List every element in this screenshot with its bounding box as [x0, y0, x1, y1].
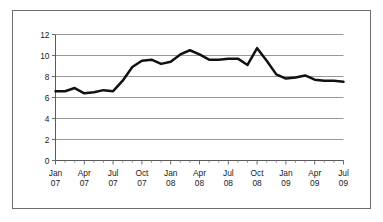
x-axis-tick-label-year: 07 [137, 178, 147, 188]
x-axis-tick-label-month: Apr [78, 168, 91, 178]
x-tick-labels-group: Jan07Apr07Jul07Oct07Jan08Apr08Jul08Oct08… [49, 168, 349, 188]
x-axis-tick-label-year: 09 [310, 178, 320, 188]
x-axis-tick-label-month: Apr [308, 168, 321, 178]
chart-figure: 024681012 Jan07Apr07Jul07Oct07Jan08Apr08… [0, 0, 383, 222]
y-axis-group [52, 35, 56, 161]
x-axis-tick-label-month: Jul [338, 168, 349, 178]
x-axis-tick-label-month: Jan [49, 168, 63, 178]
x-axis-tick-label-year: 07 [108, 178, 118, 188]
x-axis-tick-label-year: 08 [166, 178, 176, 188]
x-axis-tick-label-year: 08 [252, 178, 262, 188]
x-axis-tick-label-month: Jul [108, 168, 119, 178]
x-axis-tick-label-year: 08 [224, 178, 234, 188]
x-axis-tick-label-month: Oct [135, 168, 149, 178]
x-axis-tick-label-year: 08 [195, 178, 205, 188]
y-axis-tick-label: 6 [45, 93, 50, 103]
x-axis-tick-label-year: 09 [339, 178, 349, 188]
y-axis-tick-label: 0 [45, 156, 50, 166]
y-axis-tick-label: 4 [45, 114, 50, 124]
y-tick-labels-group: 024681012 [40, 30, 50, 166]
x-axis-tick-label-month: Jan [279, 168, 293, 178]
x-axis-tick-label-year: 07 [80, 178, 90, 188]
x-axis-tick-label-month: Oct [251, 168, 265, 178]
data-series-line [56, 48, 344, 93]
y-axis-tick-label: 10 [40, 51, 50, 61]
y-axis-tick-label: 8 [45, 72, 50, 82]
x-axis-tick-label-year: 09 [281, 178, 291, 188]
x-axis-tick-label-month: Jan [164, 168, 178, 178]
line-chart: 024681012 Jan07Apr07Jul07Oct07Jan08Apr08… [0, 0, 383, 222]
x-axis-tick-label-month: Jul [223, 168, 234, 178]
x-axis-tick-label-year: 07 [51, 178, 61, 188]
y-axis-tick-label: 2 [45, 135, 50, 145]
x-axis-tick-label-month: Apr [193, 168, 206, 178]
y-axis-tick-label: 12 [40, 30, 50, 40]
x-axis-group [56, 161, 344, 165]
